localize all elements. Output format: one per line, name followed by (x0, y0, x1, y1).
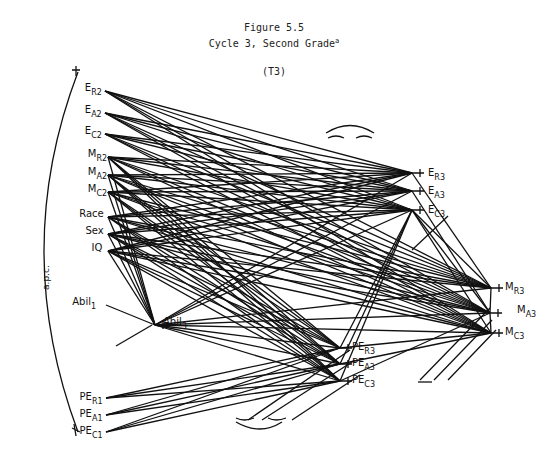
node-mc3: MC3 (505, 326, 524, 341)
apc-label: a.p.c. (41, 265, 51, 290)
node-ec3: EC3 (428, 204, 445, 219)
path-MA2-ER3 (108, 173, 412, 175)
node-ec2: EC2 (85, 125, 102, 140)
path-diagram: ER2EA2EC2MR2MA2MC2RaceSexIQAbil1Abil3PER… (0, 0, 548, 459)
arrowhead-icon (491, 284, 503, 292)
top-curved-arrow (326, 126, 374, 134)
node-per1: PER1 (80, 391, 103, 406)
node-pea3: PEA3 (352, 357, 375, 372)
node-er2: ER2 (85, 82, 102, 97)
arrowhead-icon (490, 309, 502, 317)
node-sex: Sex (85, 225, 103, 236)
residual-line-5 (248, 350, 350, 420)
bottom-curved-arrow (236, 422, 282, 429)
path-MR2-MC3 (108, 157, 491, 333)
path-MR3-MA3 (490, 288, 491, 313)
residual-line-1 (412, 216, 448, 250)
bottom-curved-arrow-small-2 (268, 418, 286, 420)
path-ER2-ER3 (105, 91, 412, 173)
path-IQ-PEA3 (108, 251, 340, 364)
node-ma3: MA3 (517, 304, 536, 319)
apc-curved-arrow (44, 72, 78, 432)
node-mr3: MR3 (505, 281, 524, 296)
node-ea3: EA3 (428, 185, 445, 200)
path-PEC1-PEC3 (106, 381, 340, 432)
node-mr2: MR2 (88, 148, 107, 163)
path-Race-MR3 (108, 217, 491, 288)
node-pea1: PEA1 (80, 408, 103, 423)
path-MC3-MA3 (490, 313, 491, 333)
node-er3: ER3 (428, 167, 445, 182)
top-curved-arrow-small-2 (356, 136, 372, 138)
residual-line-3 (434, 320, 492, 380)
node-pec1: PEC1 (80, 425, 103, 440)
apc-arrowhead-top-icon (72, 66, 80, 76)
node-mc2: MC2 (88, 183, 107, 198)
node-race: Race (79, 208, 104, 219)
residual-line-abil (116, 325, 152, 346)
node-abil1: Abil1 (72, 296, 96, 311)
node-per3: PER3 (352, 341, 375, 356)
node-ma2: MA2 (88, 166, 107, 181)
node-pec3: PEC3 (352, 374, 375, 389)
node-iq: IQ (92, 242, 103, 253)
node-ea2: EA2 (85, 104, 102, 119)
path-Sex-MR3 (108, 234, 491, 288)
path-PEC1-PEA3 (106, 364, 340, 432)
top-curved-arrow-small-1 (328, 136, 344, 138)
